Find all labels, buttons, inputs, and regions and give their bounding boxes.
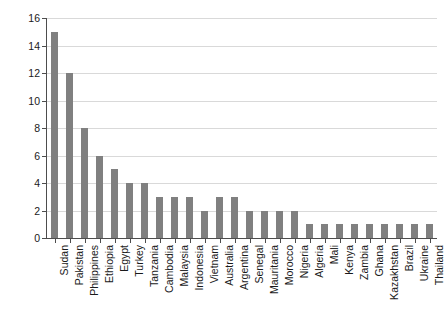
y-tick-mark <box>42 46 47 47</box>
x-tick-label: Mauritania <box>269 245 280 294</box>
x-tick-label: Thailand <box>434 245 444 285</box>
x-tick-label: Sudan <box>59 245 70 275</box>
y-tick-mark <box>42 156 47 157</box>
x-tick-label: Turkey <box>134 245 145 277</box>
x-tick-label: Kenya <box>344 245 355 275</box>
x-tick-label: Zambia <box>359 245 370 280</box>
bar-chart: 0246810121416 SudanPakistanPhilippinesEt… <box>0 0 444 313</box>
x-tick-label: Argentina <box>239 245 250 290</box>
y-tick-mark <box>42 101 47 102</box>
x-tick-label: Malaysia <box>179 245 190 286</box>
x-tick-label: Vietnam <box>209 245 220 283</box>
x-tick-label: Ethiopia <box>104 245 115 283</box>
x-tick-label: Morocco <box>284 245 295 285</box>
x-tick-label: Cambodia <box>164 245 175 293</box>
x-tick-label: Ukraine <box>419 245 430 281</box>
x-tick-label: Brazil <box>404 245 415 271</box>
y-tick-mark <box>42 238 47 239</box>
y-tick-mark <box>42 128 47 129</box>
x-tick-label: Philippines <box>89 245 100 296</box>
x-tick-label: Australia <box>224 245 235 286</box>
x-tick-label: Ghana <box>374 245 385 277</box>
x-tick-label: Nigeria <box>299 245 310 278</box>
x-tick-label: Egypt <box>119 245 130 272</box>
x-tick-label: Pakistan <box>74 245 85 285</box>
y-tick-mark <box>42 73 47 74</box>
x-axis-tick-labels: SudanPakistanPhilippinesEthiopiaEgyptTur… <box>0 0 444 313</box>
y-tick-mark <box>42 211 47 212</box>
y-tick-mark <box>42 18 47 19</box>
x-tick-label: Indonesia <box>194 245 205 291</box>
x-tick-label: Kazakhstan <box>389 245 400 300</box>
y-tick-mark <box>42 183 47 184</box>
x-tick-label: Mali <box>329 245 340 264</box>
x-tick-label: Senegal <box>254 245 265 284</box>
x-tick-label: Algeria <box>314 245 325 278</box>
x-tick-label: Tanzania <box>149 245 160 287</box>
